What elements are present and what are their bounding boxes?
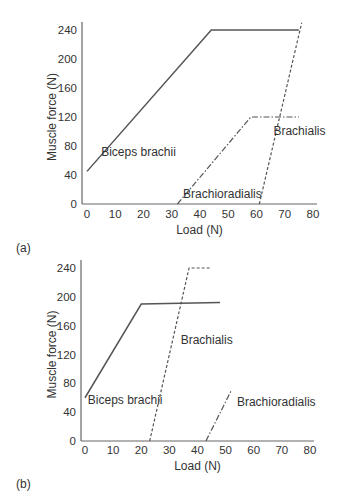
series-label: Brachialis [273,124,325,138]
y-tick-label: 80 [64,140,77,152]
series-line [150,268,212,441]
x-tick-label: 40 [191,444,204,456]
x-tick-label: 10 [109,208,122,220]
series-line [259,23,301,204]
x-tick-label: 20 [137,208,150,220]
y-tick-label: 240 [58,24,77,36]
y-tick-label: 160 [58,82,77,94]
x-tick-label: 20 [135,444,148,456]
muscle-force-chart: 0408012016020024001020304050607080Load (… [0,0,341,498]
x-tick-label: 60 [250,208,263,220]
x-tick-label: 70 [275,444,288,456]
series-label: Biceps brachii [101,145,176,159]
y-tick-label: 0 [70,435,76,447]
panel-label: (b) [16,477,31,491]
y-axis-title: Muscle force (N) [45,73,59,161]
y-tick-label: 120 [57,349,76,361]
x-tick-label: 60 [247,444,260,456]
x-tick-label: 80 [307,208,320,220]
series-label: Brachioradialis [237,395,316,409]
x-axis-title: Load (N) [174,459,221,473]
x-tick-label: 80 [304,444,317,456]
x-tick-label: 70 [278,208,291,220]
y-tick-label: 200 [58,53,77,65]
x-tick-label: 30 [163,444,176,456]
y-tick-label: 200 [57,291,76,303]
x-tick-label: 30 [165,208,178,220]
y-axis-title: Muscle force (N) [45,310,59,398]
y-tick-label: 0 [71,198,77,210]
y-tick-label: 80 [63,377,76,389]
series-label: Brachioradialis [183,187,262,201]
y-tick-label: 40 [63,406,76,418]
series-line [206,391,231,441]
panel-label: (a) [16,241,31,255]
y-tick-label: 160 [57,320,76,332]
series-line [85,303,220,398]
y-tick-label: 120 [58,111,77,123]
x-tick-label: 10 [107,444,120,456]
y-tick-label: 40 [64,169,77,181]
x-tick-label: 0 [82,444,88,456]
y-tick-label: 240 [57,262,76,274]
x-tick-label: 40 [194,208,207,220]
series-label: Biceps brachii [88,393,163,407]
x-tick-label: 50 [222,208,235,220]
x-tick-label: 50 [219,444,232,456]
x-tick-label: 0 [84,208,90,220]
x-axis-title: Load (N) [176,223,223,237]
series-label: Brachialis [181,333,233,347]
